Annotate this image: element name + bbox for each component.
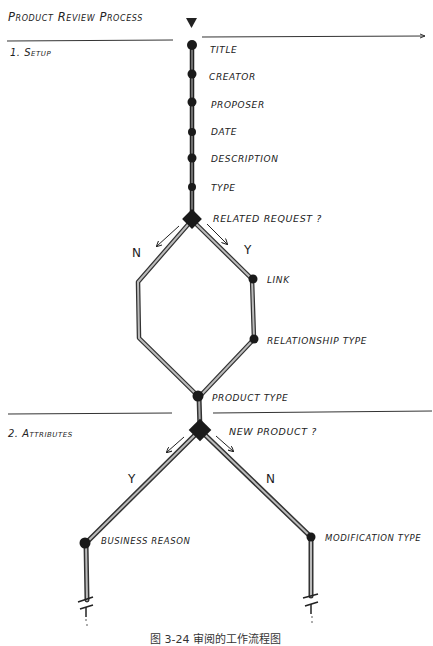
node-label-description: Description — [211, 154, 279, 164]
decision-label-new-product: New Product ? — [229, 426, 317, 437]
related-request-branches — [138, 220, 254, 396]
node-label-link: Link — [267, 275, 290, 285]
node-label-proposer: Proposer — [211, 100, 265, 110]
start-triangle-icon — [186, 18, 197, 28]
node-label-creator: Creator — [209, 72, 256, 82]
section-divider-1 — [7, 34, 425, 41]
figure-caption: 图 3-24 审阅的工作流程图 — [150, 630, 281, 646]
branch-label-no: N — [266, 472, 275, 486]
node-label-relationship-type: Relationship Type — [267, 336, 367, 346]
branch-label-no: N — [132, 246, 141, 260]
node-label-product-type: Product Type — [212, 393, 288, 403]
section-label-setup: 1. Setup — [10, 47, 51, 58]
decision-label-related-request: Related Request ? — [213, 213, 322, 224]
node-label-modification-type: Modification Type — [325, 533, 421, 543]
section-label-attributes: 2. Attributes — [8, 428, 73, 439]
section-divider-2 — [8, 411, 432, 414]
continuation-stubs — [78, 594, 318, 617]
node-label-title: Title — [210, 45, 237, 55]
branch-label-yes: Y — [128, 472, 135, 486]
node-label-date: Date — [211, 127, 237, 137]
node-label-business-reason: Business Reason — [101, 536, 190, 546]
branch-label-yes: Y — [244, 243, 251, 257]
node-label-type: Type — [211, 183, 236, 193]
branch-arrows — [157, 224, 233, 452]
new-product-branches — [86, 430, 311, 600]
